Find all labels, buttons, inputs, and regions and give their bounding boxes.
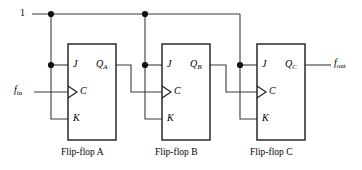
junction-dot-j-a bbox=[48, 62, 54, 68]
junction-dot-rail-a bbox=[48, 11, 54, 17]
output-signal-subscript: out bbox=[337, 62, 346, 70]
output-label-qc: QC bbox=[285, 58, 297, 69]
logic-one-label: 1 bbox=[20, 7, 25, 18]
pin-label-j-b: J bbox=[167, 58, 171, 69]
caption-flipflop-c: Flip-flop C bbox=[250, 147, 293, 157]
caption-flipflop-b: Flip-flop B bbox=[155, 147, 198, 157]
output-label-qa-subscript: A bbox=[103, 63, 107, 71]
pin-label-c-a: C bbox=[80, 85, 87, 96]
wire-qb-to-clk-c bbox=[210, 65, 257, 92]
junction-dot-rail-b bbox=[142, 11, 148, 17]
output-label-qc-subscript: C bbox=[292, 63, 297, 71]
junction-dot-j-b bbox=[142, 62, 148, 68]
pin-label-c-c: C bbox=[269, 85, 276, 96]
pin-label-k-c: K bbox=[262, 112, 269, 123]
wire-qa-to-clk-b bbox=[116, 65, 162, 92]
output-label-qa: QA bbox=[96, 58, 108, 69]
pin-label-k-a: K bbox=[73, 112, 80, 123]
caption-flipflop-a: Flip-flop A bbox=[61, 147, 104, 157]
output-signal-label: fout bbox=[334, 57, 346, 68]
circuit-diagram: 1 fin fout J C K QA J C K QB J C K QC Fl… bbox=[0, 0, 362, 170]
pin-label-c-b: C bbox=[174, 85, 181, 96]
circuit-wiring-canvas bbox=[0, 0, 362, 170]
output-label-qb-subscript: B bbox=[197, 63, 201, 71]
pin-label-j-c: J bbox=[262, 58, 266, 69]
output-label-qb: QB bbox=[190, 58, 202, 69]
pin-label-j-a: J bbox=[73, 58, 77, 69]
junction-dot-j-c bbox=[237, 62, 243, 68]
input-signal-subscript: in bbox=[17, 89, 22, 97]
input-signal-label: fin bbox=[14, 84, 22, 95]
pin-label-k-b: K bbox=[167, 112, 174, 123]
